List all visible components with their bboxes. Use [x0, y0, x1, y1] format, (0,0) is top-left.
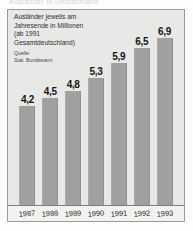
- chart-caption: Ausländer jeweils am Jahresende in Milli…: [14, 13, 122, 48]
- bar-1992: [134, 48, 150, 210]
- x-axis-strip: 1987198819891990199119921993: [7, 205, 185, 222]
- chart-panel: 4,24,54,85,35,96,56,9 Ausländer jeweils …: [7, 9, 185, 211]
- axis-rule: [8, 205, 184, 206]
- bar-value-label-1988: 4,5: [39, 86, 61, 97]
- bar-1987: [19, 106, 35, 210]
- bar-value-label-1990: 5,3: [85, 66, 107, 77]
- bar-1990: [88, 78, 104, 210]
- chart-figure: Ausländer in Deutschland 4,24,54,85,35,9…: [0, 0, 193, 231]
- bar-value-label-1989: 4,8: [62, 79, 84, 90]
- bar-1993: [157, 38, 173, 210]
- bar-value-label-1993: 6,9: [154, 26, 176, 37]
- bar-value-label-1987: 4,2: [16, 94, 38, 105]
- bar-1988: [42, 98, 58, 210]
- bar-1991: [111, 63, 127, 210]
- clipped-headline: Ausländer in Deutschland: [9, 0, 159, 6]
- chart-source: Quelle: Stat. Bundesamt: [14, 50, 94, 63]
- x-axis-label-1993: 1993: [151, 208, 178, 219]
- bar-1989: [65, 91, 81, 210]
- bar-value-label-1991: 5,9: [108, 51, 130, 62]
- bar-value-label-1992: 6,5: [131, 36, 153, 47]
